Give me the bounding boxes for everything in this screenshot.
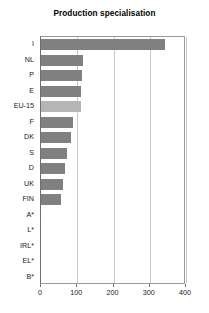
x-tick-label: 100 xyxy=(70,288,82,297)
y-axis-label: EL* xyxy=(22,253,34,269)
chart-title: Production specialisation xyxy=(0,9,209,18)
gridline xyxy=(186,37,187,283)
x-tick-label: 400 xyxy=(179,288,191,297)
bar-s[interactable] xyxy=(41,148,67,159)
bar-row xyxy=(41,53,184,69)
x-tick-mark xyxy=(149,284,150,287)
bar-row xyxy=(41,161,184,177)
x-tick-mark xyxy=(113,284,114,287)
bar-row xyxy=(41,192,184,208)
bar-row xyxy=(41,177,184,193)
bar-fin[interactable] xyxy=(41,194,61,205)
bar-row xyxy=(41,99,184,115)
bar-row xyxy=(41,239,184,255)
bar-uk[interactable] xyxy=(41,179,63,190)
y-axis-label: S xyxy=(29,145,34,161)
bar-series xyxy=(41,37,184,283)
bar-row xyxy=(41,254,184,270)
x-tick-mark xyxy=(185,284,186,287)
bar-row xyxy=(41,68,184,84)
y-axis-label: F xyxy=(30,114,34,130)
bar-f[interactable] xyxy=(41,117,73,128)
y-axis-label: L* xyxy=(27,222,34,238)
y-axis-label: IRL* xyxy=(20,238,34,254)
plot-area xyxy=(40,36,185,284)
bar-row xyxy=(41,208,184,224)
bar-i[interactable] xyxy=(41,39,165,50)
x-tick-label: 300 xyxy=(143,288,155,297)
y-axis-label: A* xyxy=(26,207,34,223)
y-axis-label: DK xyxy=(24,129,34,145)
x-tick-label: 200 xyxy=(107,288,119,297)
y-axis-label: P xyxy=(29,67,34,83)
y-axis-label: B* xyxy=(26,269,34,285)
bar-eu15[interactable] xyxy=(41,101,81,112)
bar-e[interactable] xyxy=(41,86,81,97)
x-tick-label: 0 xyxy=(38,288,42,297)
x-tick-mark xyxy=(40,284,41,287)
bar-p[interactable] xyxy=(41,70,82,81)
y-axis-label: NL xyxy=(25,52,34,68)
bar-row xyxy=(41,115,184,131)
bar-row xyxy=(41,223,184,239)
y-axis-labels: INLPEEU-15FDKSDUKFINA*L*IRL*EL*B* xyxy=(0,36,37,284)
bar-row xyxy=(41,84,184,100)
x-axis-ticks: 0100200300400 xyxy=(40,284,185,310)
chart-figure: Production specialisation INLPEEU-15FDKS… xyxy=(0,0,209,313)
bar-row xyxy=(41,146,184,162)
bar-nl[interactable] xyxy=(41,55,83,66)
bar-row xyxy=(41,130,184,146)
x-tick-mark xyxy=(76,284,77,287)
y-axis-label: E xyxy=(29,83,34,99)
y-axis-label: FIN xyxy=(22,191,34,207)
bar-dk[interactable] xyxy=(41,132,71,143)
y-axis-label: EU-15 xyxy=(14,98,34,114)
bar-row xyxy=(41,270,184,286)
bar-row xyxy=(41,37,184,53)
y-axis-label: I xyxy=(32,36,34,52)
y-axis-label: UK xyxy=(24,176,34,192)
y-axis-label: D xyxy=(29,160,34,176)
bar-d[interactable] xyxy=(41,163,65,174)
